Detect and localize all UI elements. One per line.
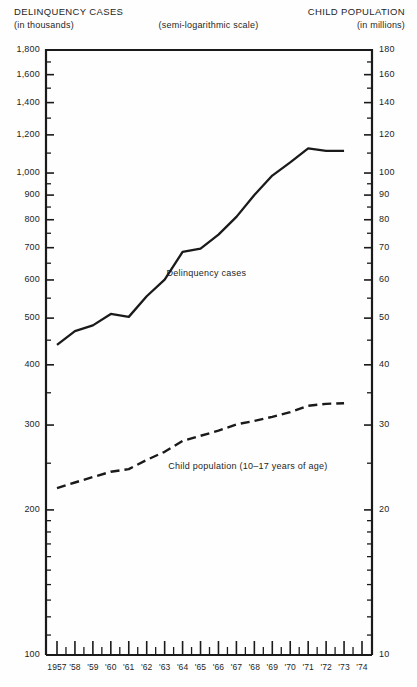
y2-tick-label: 50 bbox=[379, 313, 389, 322]
y-tick-label: 800 bbox=[24, 215, 40, 224]
y2-tick-label: 70 bbox=[379, 243, 389, 252]
x-tick-label: '74 bbox=[342, 663, 382, 672]
y2-tick-label: 100 bbox=[379, 168, 395, 177]
y2-tick-label: 90 bbox=[379, 190, 389, 199]
y-tick-label: 1,600 bbox=[16, 70, 40, 79]
y-tick-label: 1,200 bbox=[16, 130, 40, 139]
y-tick-label: 700 bbox=[24, 243, 40, 252]
y-tick-label: 300 bbox=[24, 420, 40, 429]
y2-tick-label: 180 bbox=[379, 45, 395, 54]
y-tick-label: 900 bbox=[24, 190, 40, 199]
y2-tick-label: 160 bbox=[379, 70, 395, 79]
y2-tick-label: 10 bbox=[379, 650, 389, 659]
y2-tick-label: 20 bbox=[379, 505, 389, 514]
y-tick-label: 100 bbox=[24, 650, 40, 659]
y2-tick-label: 80 bbox=[379, 215, 389, 224]
y-tick-label: 400 bbox=[24, 360, 40, 369]
y2-tick-label: 60 bbox=[379, 275, 389, 284]
y-tick-label: 1,400 bbox=[16, 98, 40, 107]
y2-tick-label: 30 bbox=[379, 420, 389, 429]
plot-area: 1002003004005006007008009001,0001,2001,4… bbox=[0, 0, 417, 687]
y2-tick-label: 120 bbox=[379, 130, 395, 139]
y-tick-label: 500 bbox=[24, 313, 40, 322]
series-line-child-population bbox=[57, 403, 344, 488]
y-tick-label: 1,800 bbox=[16, 45, 40, 54]
y-tick-label: 200 bbox=[24, 505, 40, 514]
y2-tick-label: 140 bbox=[379, 98, 395, 107]
plot-frame bbox=[46, 50, 372, 655]
chart-page: DELINQUENCY CASES (in thousands) CHILD P… bbox=[0, 0, 417, 687]
series-annotation-child-population: Child population (10–17 years of age) bbox=[168, 461, 327, 471]
series-line-delinquency bbox=[57, 148, 344, 345]
y-tick-label: 1,000 bbox=[16, 168, 40, 177]
chart-svg bbox=[0, 0, 417, 687]
y-tick-label: 600 bbox=[24, 275, 40, 284]
series-annotation-delinquency: Delinquency cases bbox=[166, 268, 246, 278]
y2-tick-label: 40 bbox=[379, 360, 389, 369]
